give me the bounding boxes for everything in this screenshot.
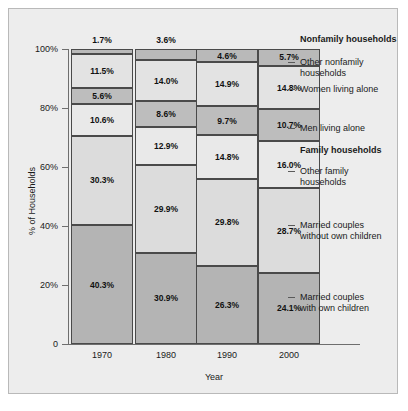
bar-segment-label: 3.6% bbox=[135, 35, 197, 45]
bar-segment-label: 29.8% bbox=[197, 217, 257, 227]
bar-segment-label: 1.7% bbox=[71, 35, 133, 45]
bar-1990[interactable]: 26.3%29.8%14.8%9.7%14.9%4.6% bbox=[196, 49, 258, 344]
legend-leader-line bbox=[288, 297, 295, 298]
bar-segment[interactable]: 8.6% bbox=[135, 101, 197, 126]
y-tick-label: 80% bbox=[40, 103, 58, 113]
bar-segment-label: 9.7% bbox=[197, 116, 257, 126]
legend-leader-line bbox=[288, 89, 295, 90]
y-axis-title: % of Households bbox=[27, 151, 37, 251]
bar-segment-label: 30.9% bbox=[136, 293, 196, 303]
y-tick-0 bbox=[62, 344, 68, 345]
bar-segment-label: 29.9% bbox=[136, 204, 196, 214]
bar-segment-label: 26.3% bbox=[197, 300, 257, 310]
legend-leader-line bbox=[288, 171, 295, 172]
x-tick-label-1980: 1980 bbox=[135, 350, 197, 360]
bar-1980[interactable]: 30.9%29.9%12.9%8.6%14.0% bbox=[135, 49, 197, 344]
bar-segment[interactable]: 9.7% bbox=[196, 106, 258, 135]
bar-segment-label: 10.6% bbox=[72, 115, 132, 125]
legend-group-heading: Nonfamily households bbox=[300, 34, 397, 45]
x-tick-label-1990: 1990 bbox=[196, 350, 258, 360]
y-tick-label: 20% bbox=[40, 280, 58, 290]
stacked-bar-chart: 020%40%60%80%100% % of Households 197019… bbox=[0, 0, 408, 411]
y-tick-label: 100% bbox=[35, 44, 58, 54]
bar-segment-label: 11.5% bbox=[72, 66, 132, 76]
bar-segment[interactable]: 4.6% bbox=[196, 49, 258, 63]
bar-segment-label: 30.3% bbox=[72, 175, 132, 185]
legend-item-label: Women living alone bbox=[300, 84, 378, 95]
y-tick-100% bbox=[62, 49, 68, 50]
legend-item-label: Other family households bbox=[300, 166, 349, 187]
y-tick-60% bbox=[62, 167, 68, 168]
y-tick-40% bbox=[62, 226, 68, 227]
bar-segment-label: 8.6% bbox=[136, 109, 196, 119]
x-tick-label-1970: 1970 bbox=[71, 350, 133, 360]
bar-segment-label: 14.8% bbox=[197, 152, 257, 162]
y-tick-label: 40% bbox=[40, 221, 58, 231]
bar-segment-label: 5.6% bbox=[72, 91, 132, 101]
y-tick-80% bbox=[62, 108, 68, 109]
legend-item-label: Men living alone bbox=[300, 123, 365, 134]
bar-segment[interactable]: 40.3% bbox=[71, 225, 133, 344]
bar-segment-label: 40.3% bbox=[72, 280, 132, 290]
legend-item-label: Married couples without own children bbox=[300, 220, 382, 241]
legend-item-label: Married couples with own children bbox=[300, 292, 369, 313]
legend-item-label: Other nonfamily households bbox=[300, 57, 364, 78]
bar-segment[interactable]: 30.9% bbox=[135, 253, 197, 344]
legend-leader-line bbox=[288, 128, 295, 129]
y-tick-label: 60% bbox=[40, 162, 58, 172]
bar-segment[interactable]: 26.3% bbox=[196, 266, 258, 344]
bar-segment-label: 14.0% bbox=[136, 76, 196, 86]
bar-segment[interactable]: 14.8% bbox=[196, 135, 258, 179]
bar-segment[interactable]: 5.6% bbox=[71, 88, 133, 105]
bar-segment[interactable]: 11.5% bbox=[71, 54, 133, 88]
bar-segment[interactable]: 29.8% bbox=[196, 179, 258, 267]
bar-1970[interactable]: 40.3%30.3%10.6%5.6%11.5% bbox=[71, 49, 133, 344]
legend-group-heading: Family households bbox=[300, 145, 382, 156]
legend-leader-line bbox=[288, 225, 295, 226]
bar-segment-label: 4.6% bbox=[197, 51, 257, 61]
x-axis-title: Year bbox=[68, 372, 360, 382]
bar-segment[interactable]: 29.9% bbox=[135, 165, 197, 253]
bar-segment[interactable] bbox=[135, 49, 197, 60]
x-tick-label-2000: 2000 bbox=[258, 350, 320, 360]
y-tick-20% bbox=[62, 285, 68, 286]
y-axis-line bbox=[68, 49, 69, 344]
bar-segment[interactable]: 10.6% bbox=[71, 104, 133, 135]
bar-segment[interactable]: 30.3% bbox=[71, 136, 133, 225]
bar-segment[interactable] bbox=[71, 49, 133, 54]
bar-segment-label: 12.9% bbox=[136, 141, 196, 151]
x-axis-line bbox=[68, 344, 360, 345]
bar-segment-label: 14.9% bbox=[197, 79, 257, 89]
bar-segment[interactable]: 12.9% bbox=[135, 127, 197, 165]
bar-segment[interactable]: 14.0% bbox=[135, 60, 197, 101]
legend-leader-line bbox=[288, 62, 295, 63]
y-tick-label: 0 bbox=[53, 339, 58, 349]
bar-segment[interactable]: 14.9% bbox=[196, 62, 258, 106]
